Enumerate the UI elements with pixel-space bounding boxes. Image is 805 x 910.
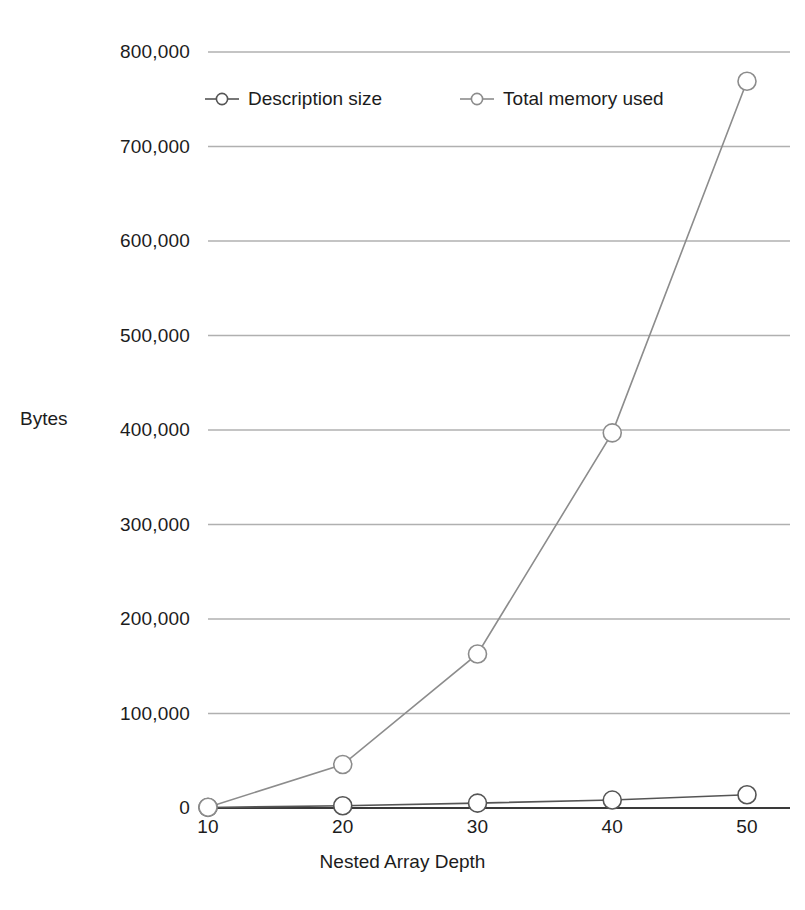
data-point-marker [334, 797, 352, 815]
y-tick-label: 300,000 [60, 514, 190, 536]
data-point-marker [334, 756, 352, 774]
legend-label: Total memory used [503, 88, 664, 110]
x-tick-label: 40 [572, 816, 652, 838]
chart-container: 0100,000200,000300,000400,000500,000600,… [0, 0, 805, 910]
legend-entry-1[interactable]: Total memory used [460, 88, 664, 110]
data-point-marker [738, 72, 756, 90]
chart-legend: Description sizeTotal memory used [205, 88, 664, 110]
legend-marker-description-size [205, 91, 239, 107]
y-axis-title: Bytes [20, 408, 68, 430]
series-line-1 [208, 81, 747, 807]
legend-label: Description size [248, 88, 382, 110]
x-axis-title: Nested Array Depth [0, 851, 805, 873]
y-tick-label: 400,000 [60, 419, 190, 441]
y-tick-label: 100,000 [60, 703, 190, 725]
legend-entry-0[interactable]: Description size [205, 88, 382, 110]
data-point-marker [469, 645, 487, 663]
data-point-marker [603, 791, 621, 809]
x-tick-label: 50 [707, 816, 787, 838]
x-tick-label: 20 [303, 816, 383, 838]
x-tick-label: 30 [438, 816, 518, 838]
data-point-marker [469, 794, 487, 812]
gridlines-group [208, 52, 790, 714]
data-point-marker [199, 798, 217, 816]
y-tick-label: 700,000 [60, 136, 190, 158]
series-group [199, 72, 756, 816]
y-tick-label: 200,000 [60, 608, 190, 630]
y-tick-label: 500,000 [60, 325, 190, 347]
data-point-marker [603, 424, 621, 442]
y-tick-label: 800,000 [60, 41, 190, 63]
y-tick-label: 600,000 [60, 230, 190, 252]
legend-marker-total-memory-used [460, 91, 494, 107]
data-point-marker [738, 786, 756, 804]
x-tick-label: 10 [168, 816, 248, 838]
